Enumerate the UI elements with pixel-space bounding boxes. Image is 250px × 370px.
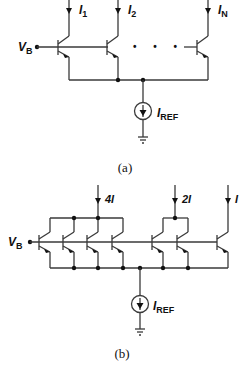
- arrow-down-icon: [172, 198, 178, 204]
- figure-a: I1 I2 IN VB: [18, 0, 228, 175]
- svg-text:4I: 4I: [104, 193, 115, 205]
- transistor-array-4i: [39, 232, 123, 268]
- arrow-down-icon: [115, 8, 121, 14]
- collector-current-2i: 2I: [172, 185, 192, 218]
- transistor: [39, 232, 50, 268]
- junction-dot: [161, 266, 165, 270]
- transistor-i: [217, 232, 228, 268]
- junction-dot: [121, 266, 125, 270]
- arrow-down-icon: [205, 8, 211, 14]
- current-source-iref-a: [135, 103, 152, 120]
- collector-current-2: I2: [115, 0, 136, 36]
- vb-label-a: VB: [18, 40, 33, 56]
- caption-b: (b): [114, 346, 129, 361]
- junction-dot: [116, 78, 120, 82]
- ellipsis: • • •: [133, 41, 184, 52]
- svg-text:I2: I2: [128, 3, 136, 19]
- vb-label-b: VB: [8, 235, 23, 251]
- transistor: [63, 232, 74, 268]
- iref-label-b: IREF: [153, 299, 175, 315]
- arrow-down-icon: [66, 8, 72, 14]
- junction-dot: [186, 266, 190, 270]
- transistor-q1: [58, 36, 69, 80]
- junction-dot: [96, 216, 100, 220]
- svg-text:I1: I1: [79, 3, 87, 19]
- junction-dot: [72, 266, 76, 270]
- junction-dot: [96, 266, 100, 270]
- junction-dot: [72, 216, 76, 220]
- ground-icon: [138, 137, 148, 143]
- arrow-down-icon: [225, 198, 231, 204]
- iref-label-a: IREF: [157, 106, 179, 122]
- transistor-qn: [184, 36, 208, 80]
- arrow-down-icon: [140, 110, 147, 116]
- transistor: [177, 232, 188, 268]
- figure-b: 4I 2I I VB: [8, 185, 239, 361]
- transistor-q2: [107, 36, 118, 80]
- ground-icon: [135, 329, 145, 335]
- current-source-iref-b: [132, 296, 149, 313]
- transistor: [112, 232, 123, 268]
- transistor: [152, 232, 163, 268]
- collector-current-n: IN: [205, 0, 228, 36]
- arrow-down-icon: [137, 303, 144, 309]
- collector-current-i: I: [225, 185, 239, 232]
- caption-a: (a): [118, 160, 132, 175]
- junction-dot: [173, 216, 177, 220]
- transistor: [87, 232, 98, 268]
- collector-current-1: I1: [66, 0, 87, 36]
- svg-text:I: I: [235, 193, 239, 205]
- svg-text:IN: IN: [218, 3, 228, 19]
- collector-current-4i: 4I: [95, 185, 115, 218]
- svg-text:2I: 2I: [181, 193, 192, 205]
- transistor-array-2i: [152, 232, 188, 268]
- arrow-down-icon: [95, 198, 101, 204]
- circuit-diagram: I1 I2 IN VB: [0, 0, 250, 370]
